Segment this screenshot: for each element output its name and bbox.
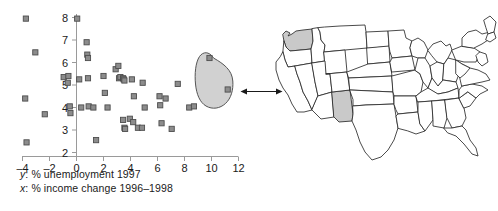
state-pennsylvania[interactable] <box>452 46 480 62</box>
state-washington[interactable] <box>283 29 313 51</box>
figure-panel: 2345678 –4–2024681012 <box>0 0 498 211</box>
y-axis-caption-text: : % unemployment 1997 <box>25 168 140 180</box>
state-north-dakota[interactable] <box>366 31 389 48</box>
state-new-mexico[interactable] <box>332 90 353 122</box>
state-alabama[interactable] <box>432 100 447 128</box>
axis-captions: y: % unemployment 1997 x: % income chang… <box>20 168 240 195</box>
state-arkansas[interactable] <box>394 96 418 114</box>
state-missouri[interactable] <box>392 70 423 96</box>
state-south-dakota[interactable] <box>367 46 390 64</box>
x-axis-caption-text: : % income change 1996–1998 <box>25 182 172 194</box>
state-montana[interactable] <box>318 25 367 52</box>
state-iowa[interactable] <box>390 56 415 72</box>
state-kansas[interactable] <box>349 76 393 92</box>
state-wisconsin[interactable] <box>410 38 428 58</box>
x-axis-caption: x: % income change 1996–1998 <box>20 182 240 196</box>
state-maine[interactable] <box>484 16 496 34</box>
state-mid-atlantic[interactable] <box>476 52 488 66</box>
state-new-york[interactable] <box>462 30 490 48</box>
state-texas[interactable] <box>352 104 398 160</box>
state-minnesota[interactable] <box>388 30 412 58</box>
state-wyoming[interactable] <box>324 50 347 74</box>
state-nebraska[interactable] <box>347 62 392 78</box>
state-florida[interactable] <box>444 126 478 156</box>
y-axis-caption: y: % unemployment 1997 <box>20 168 240 182</box>
state-oklahoma[interactable] <box>350 90 394 106</box>
